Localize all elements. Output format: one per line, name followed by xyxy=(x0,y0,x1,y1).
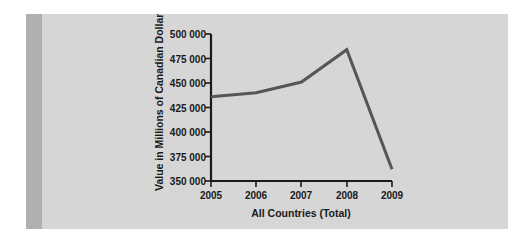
chart-svg: Value in Millions of Canadian Dollars 50… xyxy=(26,14,508,229)
y-tick-label: 450 000 xyxy=(170,78,207,89)
x-tick-label: 2005 xyxy=(200,190,223,201)
y-tick-label: 400 000 xyxy=(170,127,207,138)
x-axis-tick-labels: 2005 2006 2007 2008 2009 xyxy=(200,190,404,201)
line-chart: Value in Millions of Canadian Dollars 50… xyxy=(26,14,508,229)
y-axis-title: Value in Millions of Canadian Dollars xyxy=(153,14,165,191)
y-tick-label: 425 000 xyxy=(170,103,207,114)
x-tick-label: 2009 xyxy=(381,190,404,201)
x-axis-title: All Countries (Total) xyxy=(251,207,351,219)
chart-panel: Value in Millions of Canadian Dollars 50… xyxy=(26,14,508,229)
series-line-all-countries-total xyxy=(211,50,392,170)
x-tick-label: 2006 xyxy=(245,190,268,201)
y-tick-label: 500 000 xyxy=(170,29,207,40)
y-tick-label: 475 000 xyxy=(170,54,207,65)
x-tick-label: 2007 xyxy=(290,190,313,201)
y-tick-label: 375 000 xyxy=(170,152,207,163)
x-tick-label: 2008 xyxy=(336,190,359,201)
figure-root: Value in Millions of Canadian Dollars 50… xyxy=(0,0,524,250)
y-tick-label: 350 000 xyxy=(170,176,207,187)
y-axis-tick-labels: 500 000 475 000 450 000 425 000 400 000 … xyxy=(170,29,207,187)
